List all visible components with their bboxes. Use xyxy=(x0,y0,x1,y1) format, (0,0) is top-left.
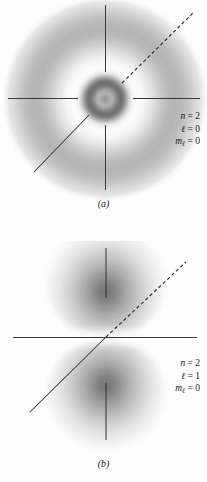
qn-n-equals: = xyxy=(188,358,193,368)
caption-b: (b) xyxy=(0,458,207,469)
panel-b: n = 2 ℓ = 1 mℓ = 0 (b) xyxy=(0,241,207,482)
orbital-figure: n = 2 ℓ = 0 mℓ = 0 (a) xyxy=(0,0,207,482)
qn-l-symbol: ℓ xyxy=(181,124,185,134)
qn-l-value: 1 xyxy=(195,371,200,381)
quantum-numbers-a: n = 2 ℓ = 0 mℓ = 0 xyxy=(175,110,200,149)
dashed-radius-line xyxy=(106,262,186,337)
qn-l-equals: = xyxy=(188,124,193,134)
qn-n-equals: = xyxy=(188,111,193,121)
qn-m-value: 0 xyxy=(195,136,200,146)
qn-m-subscript: ℓ xyxy=(182,140,185,148)
qn-l-row-a: ℓ = 0 xyxy=(175,123,200,136)
qn-m-subscript: ℓ xyxy=(182,387,185,395)
panel-a: n = 2 ℓ = 0 mℓ = 0 (a) xyxy=(0,0,207,241)
qn-m-equals: = xyxy=(188,383,193,393)
dashed-radius-line xyxy=(122,13,193,83)
qn-n-row-b: n = 2 xyxy=(175,357,200,370)
quantum-numbers-b: n = 2 ℓ = 1 mℓ = 0 xyxy=(175,357,200,396)
qn-m-row-a: mℓ = 0 xyxy=(175,135,200,149)
solid-radius-line xyxy=(30,337,106,412)
caption-a: (a) xyxy=(0,198,207,209)
qn-n-value: 2 xyxy=(195,111,200,121)
qn-l-symbol: ℓ xyxy=(181,371,185,381)
qn-m-equals: = xyxy=(188,136,193,146)
solid-radius-line xyxy=(34,115,89,172)
qn-l-value: 0 xyxy=(195,124,200,134)
qn-n-value: 2 xyxy=(195,358,200,368)
qn-m-value: 0 xyxy=(195,383,200,393)
qn-l-equals: = xyxy=(188,371,193,381)
qn-l-row-b: ℓ = 1 xyxy=(175,370,200,383)
qn-m-row-b: mℓ = 0 xyxy=(175,382,200,396)
qn-n-row-a: n = 2 xyxy=(175,110,200,123)
qn-n-symbol: n xyxy=(180,358,185,368)
qn-n-symbol: n xyxy=(180,111,185,121)
